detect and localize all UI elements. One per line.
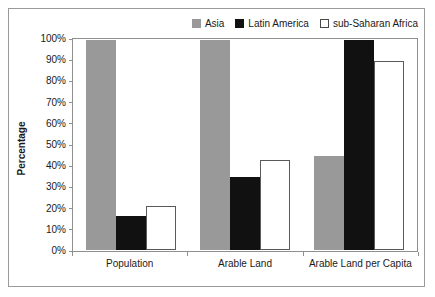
bar-latin-america xyxy=(344,40,374,250)
y-axis-tick: 0% xyxy=(52,246,73,256)
bar-groups xyxy=(74,40,416,250)
x-axis-label: Population xyxy=(72,258,187,269)
y-axis-tick: 50% xyxy=(46,140,73,150)
y-axis-tick: 80% xyxy=(46,76,73,86)
y-axis-tick: 90% xyxy=(46,55,73,65)
chart-frame: Asia Latin America sub-Saharan Africa Pe… xyxy=(8,8,425,287)
y-axis-tick-label: 90% xyxy=(46,55,66,65)
bar-latin-america xyxy=(116,216,146,250)
y-axis-tick-label: 0% xyxy=(52,246,66,256)
y-axis-tick-mark xyxy=(69,123,73,124)
y-axis-tick: 100% xyxy=(40,34,73,44)
y-axis-tick: 20% xyxy=(46,204,73,214)
bar-sub-saharan-africa xyxy=(260,160,290,250)
bar-sub-saharan-africa xyxy=(374,61,404,250)
legend-item-latin-america: Latin America xyxy=(235,18,309,29)
x-axis-tick-mark xyxy=(72,252,73,256)
legend-label-asia: Asia xyxy=(205,18,224,29)
bar-asia xyxy=(314,156,344,251)
plot-wrapper: 0%10%20%30%40%50%60%70%80%90%100% xyxy=(72,38,418,252)
legend-label-latin-america: Latin America xyxy=(248,18,309,29)
y-axis-tick-label: 40% xyxy=(46,161,66,171)
y-axis-tick-mark xyxy=(69,102,73,103)
y-axis-title-text: Percentage xyxy=(17,122,28,176)
legend-swatch-asia xyxy=(192,19,201,28)
bar-latin-america xyxy=(230,177,260,251)
bar-asia xyxy=(86,40,116,250)
y-axis-tick-mark xyxy=(69,187,73,188)
bar-group xyxy=(188,40,302,250)
bar-group xyxy=(74,40,188,250)
chart-legend: Asia Latin America sub-Saharan Africa xyxy=(192,16,418,30)
x-axis-tick-mark xyxy=(187,252,188,256)
x-axis-label: Arable Land per Capita xyxy=(303,258,418,269)
y-axis-tick: 70% xyxy=(46,98,73,108)
y-axis-tick-label: 10% xyxy=(46,225,66,235)
y-axis-tick-label: 70% xyxy=(46,98,66,108)
y-axis-tick-label: 100% xyxy=(40,34,66,44)
bar-asia xyxy=(200,40,230,250)
y-axis-tick-mark xyxy=(69,229,73,230)
y-axis-tick: 10% xyxy=(46,225,73,235)
y-axis-tick-mark xyxy=(69,208,73,209)
y-axis-tick-label: 30% xyxy=(46,182,66,192)
bar-group xyxy=(302,40,416,250)
x-axis-tick-mark xyxy=(418,252,419,256)
x-axis-labels: PopulationArable LandArable Land per Cap… xyxy=(72,258,418,269)
legend-swatch-sub-saharan-africa xyxy=(320,19,329,28)
x-axis-label: Arable Land xyxy=(187,258,302,269)
y-axis-tick-mark xyxy=(69,60,73,61)
y-axis-tick-mark xyxy=(69,81,73,82)
y-axis-tick: 60% xyxy=(46,119,73,129)
y-axis-tick-label: 60% xyxy=(46,119,66,129)
y-axis-tick: 30% xyxy=(46,182,73,192)
legend-swatch-latin-america xyxy=(235,19,244,28)
y-axis-tick-label: 80% xyxy=(46,76,66,86)
y-axis-tick-mark xyxy=(69,145,73,146)
y-axis-tick-label: 50% xyxy=(46,140,66,150)
y-axis-tick: 40% xyxy=(46,161,73,171)
legend-item-sub-saharan-africa: sub-Saharan Africa xyxy=(320,18,418,29)
legend-item-asia: Asia xyxy=(192,18,224,29)
y-axis-tick-mark xyxy=(69,39,73,40)
y-axis-tick-mark xyxy=(69,166,73,167)
y-axis-title: Percentage xyxy=(15,9,29,288)
x-axis-tick-mark xyxy=(303,252,304,256)
bar-sub-saharan-africa xyxy=(146,206,176,250)
legend-label-sub-saharan-africa: sub-Saharan Africa xyxy=(333,18,418,29)
plot-area: 0%10%20%30%40%50%60%70%80%90%100% xyxy=(72,38,418,252)
y-axis-tick-label: 20% xyxy=(46,204,66,214)
